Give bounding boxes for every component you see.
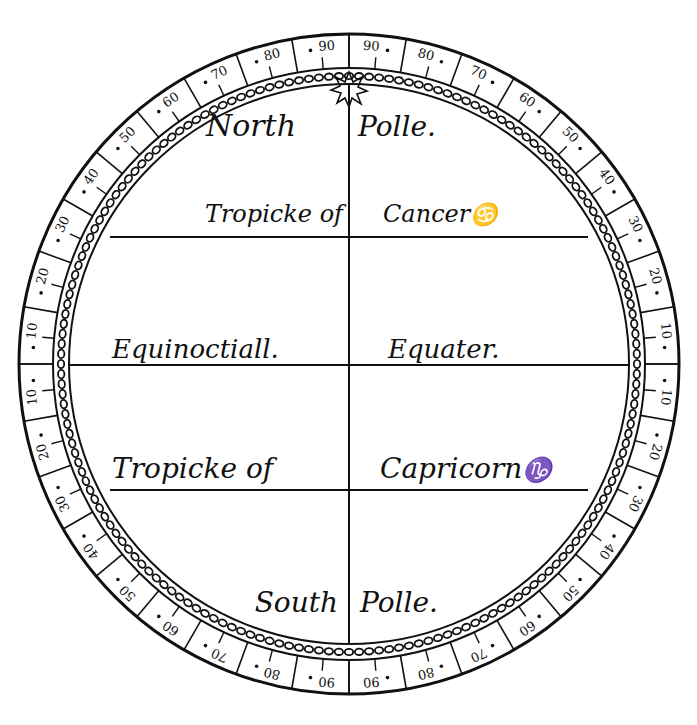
scale-division-line <box>39 251 71 263</box>
bead <box>384 75 393 83</box>
scale-tick <box>474 632 479 643</box>
tropicke-of-cancer-left-label: Tropicke of <box>205 200 347 228</box>
degree-label: 10 <box>23 388 40 406</box>
scale-dot <box>116 578 120 582</box>
bead <box>265 83 275 91</box>
bead <box>90 224 100 234</box>
bead <box>236 92 246 101</box>
bead <box>505 598 516 608</box>
scale-tick <box>617 489 628 494</box>
scale-division-line <box>236 642 248 674</box>
bead <box>394 77 403 85</box>
bead <box>255 634 265 643</box>
bead <box>236 626 246 635</box>
bead <box>622 438 630 448</box>
bead <box>619 448 628 458</box>
scale-tick <box>172 607 179 617</box>
equater-label: Equater. <box>387 334 500 364</box>
tropicke-of-capricorn-left-label: Tropicke of <box>112 452 278 485</box>
scale-division-line <box>400 656 406 690</box>
bead <box>488 110 498 120</box>
bead <box>58 380 65 389</box>
bead <box>629 309 637 318</box>
scale-tick <box>592 187 602 194</box>
bead <box>85 485 94 495</box>
scale-dot <box>655 433 659 437</box>
scale-tick <box>269 67 272 79</box>
scale-division-line <box>450 642 462 674</box>
bead <box>68 438 76 448</box>
scale-division-line <box>605 199 635 216</box>
scale-dot <box>612 190 616 194</box>
bead <box>423 83 433 91</box>
bead <box>191 603 202 613</box>
scale-tick <box>635 441 647 444</box>
bead <box>85 233 94 243</box>
bead <box>479 105 489 115</box>
scale-dot <box>537 110 541 114</box>
bead <box>209 614 219 624</box>
scale-dot <box>82 534 86 538</box>
bead <box>191 115 202 125</box>
bead <box>433 634 443 643</box>
bead <box>615 457 624 467</box>
bead <box>304 75 313 83</box>
scale-dot <box>491 81 495 85</box>
scale-tick <box>617 234 628 239</box>
scale-division-line <box>576 554 602 576</box>
scale-dot <box>255 664 259 668</box>
degree-label: 80 <box>262 664 282 683</box>
scale-division-line <box>641 415 675 421</box>
north-label: North <box>205 108 296 143</box>
bead <box>632 329 639 338</box>
bead <box>599 494 609 504</box>
bead <box>58 339 65 348</box>
scale-dot <box>440 664 444 668</box>
bead <box>284 642 294 650</box>
scale-dot <box>491 644 495 648</box>
scale-tick <box>322 57 323 69</box>
scale-division-line <box>96 554 122 576</box>
bead <box>63 419 71 429</box>
scale-dot <box>255 60 259 64</box>
bead <box>583 198 593 209</box>
scale-tick <box>269 650 272 662</box>
scale-division-line <box>137 111 159 137</box>
bead <box>58 370 65 379</box>
bead <box>470 618 480 627</box>
bead <box>632 390 639 399</box>
bead <box>414 80 424 88</box>
bead <box>470 100 480 109</box>
scale-division-line <box>39 465 71 477</box>
scale-division-line <box>627 251 659 263</box>
degree-label: 10 <box>658 388 675 406</box>
scale-tick <box>426 650 429 662</box>
bead <box>100 206 110 217</box>
bead <box>65 289 73 299</box>
scale-dot <box>663 346 667 350</box>
bead <box>375 647 384 654</box>
bead <box>294 77 303 85</box>
degree-label: 80 <box>262 45 282 64</box>
scale-tick <box>42 337 54 338</box>
scale-tick <box>519 607 526 617</box>
bead <box>630 399 638 408</box>
bead <box>294 644 303 652</box>
scale-tick <box>635 284 647 287</box>
bead <box>324 648 333 655</box>
bead <box>442 630 452 639</box>
bead <box>505 120 516 130</box>
bead <box>404 642 414 650</box>
bead <box>433 86 443 95</box>
degree-label: 80 <box>416 45 436 64</box>
scale-dot <box>440 60 444 64</box>
scale-tick <box>219 85 224 96</box>
bead <box>488 609 498 619</box>
scale-tick <box>558 573 567 582</box>
bead <box>611 467 620 477</box>
scale-division-line <box>539 591 561 617</box>
bead <box>496 115 507 125</box>
scale-division-line <box>400 39 406 73</box>
bead <box>633 370 640 379</box>
scale-tick <box>426 67 429 79</box>
